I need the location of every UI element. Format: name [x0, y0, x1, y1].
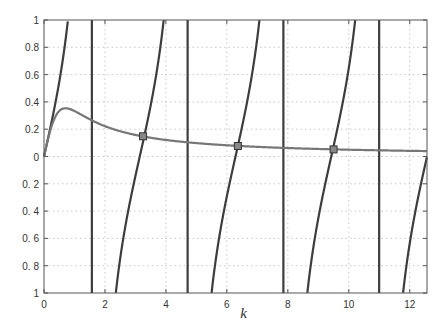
intersection-markers: [140, 133, 337, 153]
tan-branch-curve: [403, 157, 427, 293]
x-tick-label: 0: [41, 299, 47, 310]
intersection-marker: [234, 142, 241, 149]
y-tick-label: 0: [33, 152, 39, 163]
x-tick-label: 10: [343, 299, 355, 310]
chart: 02468101210.80.60.40.200. 20. 40. 60. 81…: [0, 0, 445, 334]
x-tick-label: 6: [224, 299, 230, 310]
x-tick-label: 12: [404, 299, 416, 310]
tan-branch-curve: [116, 20, 164, 293]
y-tick-label: 0. 6: [22, 233, 39, 244]
x-tick-label: 4: [163, 299, 169, 310]
x-axis-label: k: [240, 305, 247, 321]
y-tick-label: 0. 4: [22, 206, 39, 217]
intersection-marker: [140, 133, 147, 140]
y-tick-label: 1: [33, 288, 39, 299]
y-tick-label: 0.8: [25, 42, 39, 53]
y-tick-label: 0. 8: [22, 261, 39, 272]
intersection-marker: [330, 146, 337, 153]
y-tick-label: 0. 2: [22, 179, 39, 190]
y-tick-label: 1: [33, 15, 39, 26]
y-tick-label: 0.4: [25, 97, 39, 108]
y-tick-label: 0.2: [25, 124, 39, 135]
tan-branch-curve: [44, 21, 68, 156]
y-tick-label: 0.6: [25, 70, 39, 81]
x-tick-label: 2: [102, 299, 108, 310]
x-tick-label: 8: [285, 299, 291, 310]
